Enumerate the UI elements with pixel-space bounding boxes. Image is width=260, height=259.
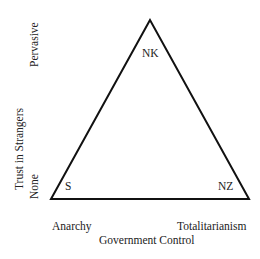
vertex-label-nk: NK	[142, 48, 159, 60]
x-axis-title: Government Control	[99, 235, 195, 247]
y-axis-min-label: None	[29, 174, 41, 199]
vertex-label-s: S	[65, 181, 71, 193]
x-axis-min-label: Anarchy	[52, 221, 92, 233]
y-axis-title: Trust in Strangers	[14, 108, 26, 190]
y-axis-max-label: Pervasive	[29, 22, 41, 67]
x-axis-max-label: Totalitarianism	[177, 221, 246, 233]
vertex-label-nz: NZ	[218, 181, 233, 193]
